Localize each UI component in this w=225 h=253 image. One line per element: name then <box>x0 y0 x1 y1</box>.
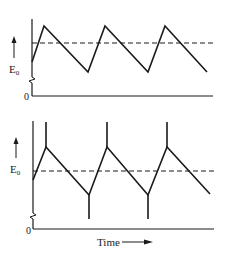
bottom-panel: E0 0 Time <box>10 121 214 248</box>
bottom-ylabel: E0 <box>10 163 21 177</box>
bottom-origin-label: 0 <box>26 225 31 236</box>
top-axis-break <box>29 77 35 83</box>
top-origin-label: 0 <box>24 91 29 102</box>
top-panel: E0 0 <box>9 19 213 102</box>
x-axis-label: Time <box>97 236 120 248</box>
top-ylabel: E0 <box>9 63 20 77</box>
bottom-axis-break <box>30 213 36 219</box>
figure: E0 0 E0 0 Time <box>0 0 225 253</box>
top-sawtooth-wave <box>32 26 207 72</box>
